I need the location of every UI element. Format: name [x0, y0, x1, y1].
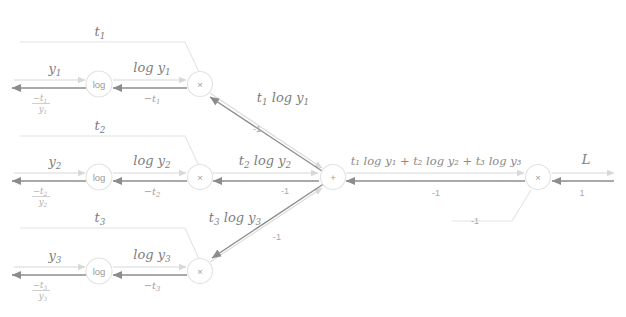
t2logy2-backward-label: -1 — [281, 186, 289, 196]
svg-text:−t2: −t2 — [33, 186, 48, 197]
t1-input-path — [20, 42, 199, 72]
t3logy3-forward-arrow — [210, 188, 322, 262]
sum-forward-label: t₁ log y₁ + t₂ log y₂ + t₃ log y₃ — [351, 154, 522, 168]
logy2-backward-label: −t2 — [144, 186, 161, 199]
multiply-node-2-label: × — [197, 172, 203, 183]
logy3-forward-label: log y3 — [133, 247, 171, 264]
t3-input-path — [20, 228, 199, 259]
multiply-node-final-label: × — [535, 172, 541, 183]
multiply-node-3-label: × — [197, 266, 203, 277]
svg-text:y3: y3 — [38, 291, 48, 302]
svg-text:−t3: −t3 — [33, 280, 48, 291]
t1-label: t1 — [95, 24, 106, 41]
multiply-node-1-label: × — [197, 79, 203, 90]
sum-backward-label: -1 — [432, 188, 440, 198]
row-1-group: log × y1 t1 log y1 −t1 −t1 — [12, 24, 325, 173]
sum-node-label: + — [330, 172, 336, 183]
t3logy3-forward-label: t3 log y3 — [209, 210, 262, 227]
row-3-group: log × y3 t3 log y3 −t3 −t3 y3 — [12, 183, 325, 302]
L-forward-label: L — [581, 152, 591, 167]
svg-text:y1: y1 — [38, 104, 47, 115]
y3-backward-fraction: −t3 y3 — [32, 280, 50, 302]
y1-backward-fraction: −t1 y1 — [32, 93, 50, 115]
svg-text:y2: y2 — [38, 197, 48, 208]
svg-text:−t1: −t1 — [33, 93, 47, 104]
t3-label: t3 — [95, 210, 106, 227]
t1logy1-forward-label: t1 log y1 — [257, 90, 309, 107]
t2-label: t2 — [95, 118, 106, 135]
t2-input-path — [20, 136, 199, 166]
y3-forward-label: y3 — [48, 248, 62, 265]
log-node-2-label: log — [93, 172, 106, 183]
constant-input-path — [452, 190, 531, 221]
t3logy3-backward-label: -1 — [273, 232, 281, 242]
L-backward-label: 1 — [579, 188, 584, 198]
sum-output-group: + × t₁ log y₁ + t₂ log y₂ + t₃ log y₃ -1… — [321, 152, 615, 226]
graph-canvas: log × y1 t1 log y1 −t1 −t1 — [0, 0, 626, 317]
logy1-forward-label: log y1 — [133, 60, 170, 77]
log-node-3-label: log — [93, 266, 106, 277]
log-node-1-label: log — [93, 79, 106, 90]
t1logy1-backward-label: -1 — [253, 124, 261, 134]
logy3-backward-label: −t3 — [144, 280, 161, 293]
computational-graph: log × y1 t1 log y1 −t1 −t1 — [0, 0, 626, 317]
y1-forward-label: y1 — [48, 61, 62, 78]
constant-input-label: -1 — [471, 216, 479, 226]
y2-forward-label: y2 — [48, 154, 62, 171]
logy2-forward-label: log y2 — [133, 153, 171, 170]
logy1-backward-label: −t1 — [144, 93, 161, 106]
row-2-group: log × y2 t2 log y2 −t2 −t2 y2 — [12, 118, 319, 208]
y2-backward-fraction: −t2 y2 — [32, 186, 50, 208]
t2logy2-forward-label: t2 log y2 — [239, 153, 292, 170]
